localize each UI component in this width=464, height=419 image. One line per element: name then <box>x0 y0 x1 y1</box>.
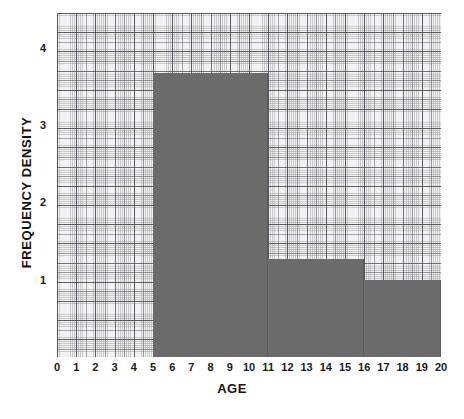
x-tick-label: 12 <box>281 360 293 374</box>
x-tick-label: 5 <box>150 360 156 374</box>
x-axis-title: AGE <box>0 381 464 396</box>
y-tick-label: 4 <box>40 42 46 54</box>
x-tick-label: 15 <box>339 360 351 374</box>
histogram-bar <box>268 259 364 357</box>
x-tick-label: 20 <box>435 360 447 374</box>
x-tick-label: 9 <box>227 360 233 374</box>
x-tick-label: 0 <box>54 360 60 374</box>
histogram-bar <box>364 280 441 357</box>
x-tick-label: 1 <box>73 360 79 374</box>
x-tick-label: 3 <box>112 360 118 374</box>
x-tick-label: 7 <box>188 360 194 374</box>
x-tick-label: 6 <box>169 360 175 374</box>
x-tick-label: 17 <box>377 360 389 374</box>
x-tick-label: 10 <box>243 360 255 374</box>
x-tick-label: 4 <box>131 360 137 374</box>
histogram-bar <box>153 73 268 357</box>
y-tick-label: 2 <box>40 196 46 208</box>
y-axis-title: FREQUENCY DENSITY <box>19 48 34 338</box>
x-tick-label: 11 <box>262 360 274 374</box>
x-tick-label: 13 <box>300 360 312 374</box>
x-tick-label: 18 <box>396 360 408 374</box>
x-tick-label: 19 <box>416 360 428 374</box>
x-tick-label: 2 <box>92 360 98 374</box>
x-tick-label: 8 <box>208 360 214 374</box>
x-axis-tick-labels: 01234567891011121314151617181920 <box>0 360 464 378</box>
x-tick-label: 16 <box>358 360 370 374</box>
y-tick-label: 3 <box>40 119 46 131</box>
plot-area <box>57 13 441 357</box>
x-tick-label: 14 <box>320 360 332 374</box>
y-tick-label: 1 <box>40 274 46 286</box>
histogram-figure: 1234 01234567891011121314151617181920 AG… <box>0 0 464 419</box>
